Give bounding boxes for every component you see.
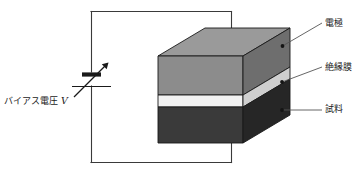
insulating-film-label: 絶縁膜 [325, 63, 352, 72]
sample-label: 試料 [325, 105, 343, 114]
bias-voltage-label: バイアス電圧 V [4, 96, 68, 106]
variability-arrow-shaft [74, 66, 106, 98]
insulator-front-face [158, 95, 243, 107]
electrode-label: 電極 [325, 19, 343, 28]
mis-capacitor-stack [158, 28, 290, 143]
insulator-anchor-dot [280, 80, 284, 84]
bias-voltage-symbol: V [61, 95, 68, 106]
diagram-canvas [0, 0, 362, 175]
sample-anchor-dot [280, 108, 284, 112]
electrode-front-face [158, 56, 243, 95]
electrode-anchor-dot [281, 44, 285, 48]
bias-voltage-label-text: バイアス電圧 [4, 96, 61, 106]
bias-voltage-device-diagram: バイアス電圧 V 電極 絶縁膜 試料 [0, 0, 362, 175]
sample-front-face [158, 107, 243, 143]
